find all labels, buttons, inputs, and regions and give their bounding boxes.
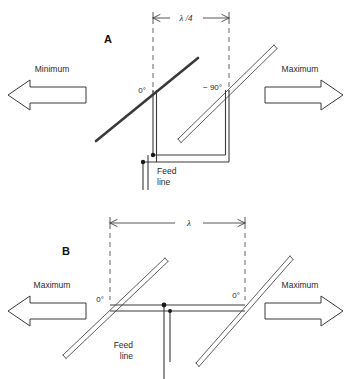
panel-a-left-phase-label: 0° [138,86,146,95]
panel-a-right-dipole-element [178,45,277,143]
panel-a-feed-label-line2: line [157,177,171,187]
panel-a-junction-dot-lower [141,160,145,164]
panel-b-right-phase-label: 0° [232,291,240,300]
panel-b-feed-label-line1: Feed [114,340,134,350]
panel-b-junction-dot-upper [162,303,167,308]
panel-a-dimension: λ /4 [153,12,229,24]
panel-b-left-radiation-arrow: Maximum [8,280,86,326]
panel-b-dimension: λ [110,217,245,229]
panel-b-label: B [62,245,70,257]
panel-a-junction-dot-upper [151,153,155,157]
panel-b: B λ [8,217,343,379]
panel-b-right-radiation-label: Maximum [282,280,319,290]
panel-a-feed-label-line1: Feed [157,166,177,176]
panel-a-right-radiation-arrow: Maximum [265,64,343,110]
panel-b-junction-dot-lower [168,309,172,313]
panel-a-left-dipole-element [96,58,198,141]
panel-b-right-radiation-arrow: Maximum [265,280,343,326]
antenna-array-figure: A λ /4 [0,0,351,379]
panel-b-phasing-line [110,305,245,311]
panel-b-left-radiation-label: Maximum [34,280,71,290]
panel-a-right-phase-label: − 90° [203,83,222,92]
panel-b-left-phase-label: 0° [96,295,104,304]
panel-a-feedline [141,90,229,190]
panel-a-label: A [104,33,112,45]
panel-a-left-radiation-arrow: Minimum [8,64,86,110]
panel-b-feedline [162,303,172,379]
panel-a: A λ /4 [8,12,343,190]
panel-a-right-radiation-label: Maximum [282,64,319,74]
panel-b-dimension-label: λ [186,218,191,228]
panel-a-left-radiation-label: Minimum [35,64,69,74]
panel-a-dimension-label: λ /4 [178,13,193,23]
panel-b-feed-label-line2: line [120,351,134,361]
